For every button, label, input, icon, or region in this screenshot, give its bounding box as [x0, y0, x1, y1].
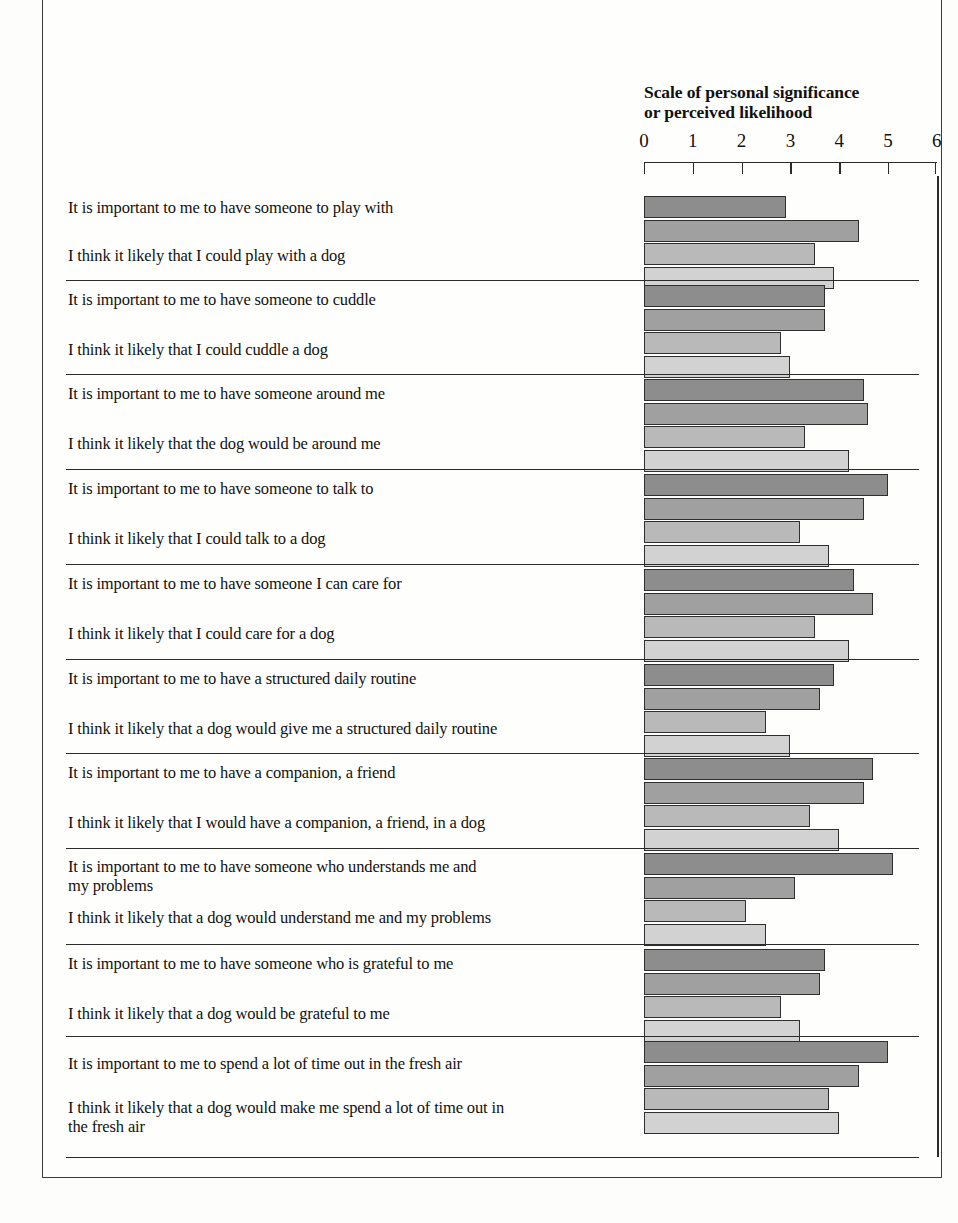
bar — [644, 758, 873, 780]
question-label: I think it likely that I could play with… — [68, 246, 643, 265]
question-label: It is important to me to have someone to… — [68, 198, 643, 217]
group-separator — [66, 753, 919, 754]
group-separator — [66, 944, 919, 945]
question-label: I think it likely that I could cuddle a … — [68, 340, 643, 359]
question-label: I think it likely that I would have a co… — [68, 813, 643, 832]
bar — [644, 877, 795, 899]
group-separator — [66, 564, 919, 565]
x-tick-label-6: 6 — [932, 130, 942, 152]
bar — [644, 900, 746, 922]
bar — [644, 521, 800, 543]
question-label: It is important to me to spend a lot of … — [68, 1054, 643, 1073]
question-group: It is important to me to spend a lot of … — [42, 1036, 942, 1157]
x-tick-label-1: 1 — [688, 130, 698, 152]
x-tick-label-5: 5 — [883, 130, 893, 152]
group-separator-bottom — [66, 1157, 919, 1158]
bar — [644, 688, 820, 710]
x-tick-label-3: 3 — [786, 130, 796, 152]
bar — [644, 309, 825, 331]
bar — [644, 664, 834, 686]
question-group: It is important to me to have someone wh… — [42, 944, 942, 1036]
bar — [644, 924, 766, 946]
question-label: I think it likely that I could talk to a… — [68, 529, 643, 548]
bar — [644, 805, 810, 827]
x-tick-label-4: 4 — [834, 130, 844, 152]
x-tick-mark-4 — [839, 163, 840, 174]
bar — [644, 711, 766, 733]
bar — [644, 426, 805, 448]
question-group: It is important to me to have someone to… — [42, 469, 942, 564]
bar — [644, 1088, 829, 1110]
bar — [644, 569, 854, 591]
axis-title: Scale of personal significance or percei… — [644, 82, 944, 122]
x-axis-rule — [644, 162, 937, 174]
question-label: It is important to me to have someone to… — [68, 290, 643, 309]
question-group: It is important to me to have someone to… — [42, 280, 942, 374]
bar — [644, 285, 825, 307]
bar — [644, 1065, 859, 1087]
question-group: It is important to me to have someone ar… — [42, 374, 942, 469]
bar — [644, 1041, 888, 1063]
x-axis-tick-labels: 0123456 — [644, 130, 944, 156]
bar — [644, 332, 781, 354]
bar — [644, 498, 864, 520]
x-tick-mark-3 — [790, 163, 791, 174]
question-label: It is important to me to have a companio… — [68, 763, 643, 782]
group-separator — [66, 469, 919, 470]
question-label: I think it likely that a dog would make … — [68, 1098, 643, 1136]
question-label: It is important to me to have someone wh… — [68, 857, 643, 895]
question-group: It is important to me to have someone I … — [42, 564, 942, 659]
bar — [644, 782, 864, 804]
plot-area: It is important to me to have someone to… — [42, 176, 942, 1178]
question-label: I think it likely that a dog would under… — [68, 908, 643, 927]
bar — [644, 593, 873, 615]
bar — [644, 403, 868, 425]
x-tick-mark-1 — [693, 163, 694, 174]
x-tick-mark-2 — [742, 163, 743, 174]
bar — [644, 996, 781, 1018]
question-label: It is important to me to have someone I … — [68, 574, 643, 593]
bar — [644, 243, 815, 265]
axis-header: Scale of personal significance or percei… — [644, 82, 944, 122]
bar — [644, 196, 786, 218]
question-label: It is important to me to have someone ar… — [68, 384, 643, 403]
group-separator — [66, 659, 919, 660]
question-group: It is important to me to have a structur… — [42, 659, 942, 753]
bar — [644, 379, 864, 401]
group-separator — [66, 374, 919, 375]
question-label: It is important to me to have someone to… — [68, 479, 643, 498]
question-label: I think it likely that a dog would give … — [68, 719, 643, 738]
question-group: It is important to me to have someone wh… — [42, 848, 942, 944]
group-separator — [66, 280, 919, 281]
bar — [644, 853, 893, 875]
question-label: I think it likely that I could care for … — [68, 624, 643, 643]
question-label: It is important to me to have someone wh… — [68, 954, 643, 973]
bar — [644, 949, 825, 971]
bar — [644, 1112, 839, 1134]
bar — [644, 973, 820, 995]
bar — [644, 616, 815, 638]
bar — [644, 220, 859, 242]
question-label: I think it likely that the dog would be … — [68, 434, 643, 453]
x-tick-label-0: 0 — [639, 130, 649, 152]
group-separator — [66, 848, 919, 849]
question-group: It is important to me to have someone to… — [42, 184, 942, 280]
x-tick-label-2: 2 — [737, 130, 747, 152]
question-group: It is important to me to have a companio… — [42, 753, 942, 848]
x-tick-mark-0 — [644, 163, 645, 174]
question-label: I think it likely that a dog would be gr… — [68, 1004, 643, 1023]
bar — [644, 474, 888, 496]
x-tick-mark-6 — [935, 163, 936, 174]
question-label: It is important to me to have a structur… — [68, 669, 643, 688]
group-separator — [66, 1036, 919, 1037]
x-tick-mark-5 — [888, 163, 889, 174]
